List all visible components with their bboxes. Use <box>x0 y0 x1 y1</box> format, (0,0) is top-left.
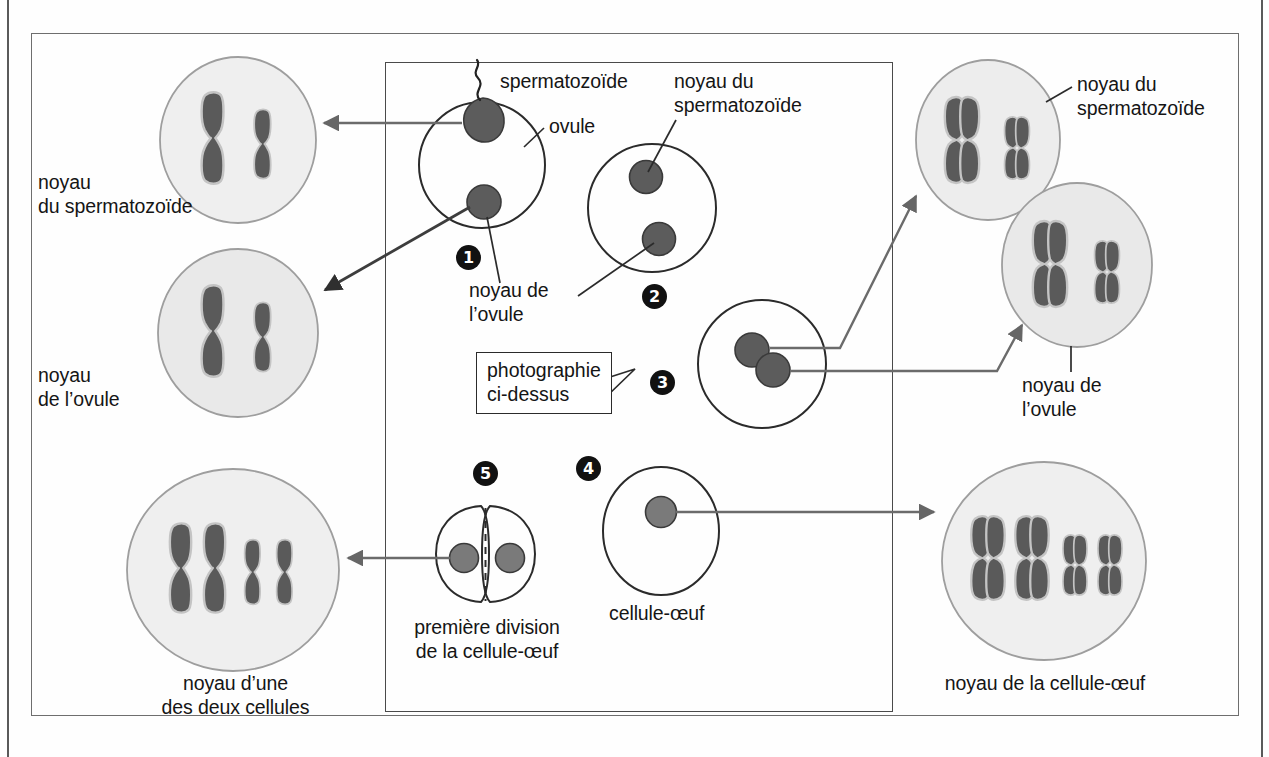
label-ovule: ovule <box>549 115 595 139</box>
step-badge-2[interactable]: 2 <box>642 284 667 309</box>
arrow-step3-to-sperm-doubled <box>770 196 916 348</box>
step4-egg-cell <box>603 467 719 595</box>
magnification-arrows <box>324 123 1022 558</box>
callout-photographie-ci-dessus: photographie ci-dessus <box>476 352 612 414</box>
step2-two-nuclei-cell <box>578 120 716 296</box>
magnified-ovule-nucleus-single <box>158 249 318 417</box>
magnified-egg-cell-nucleus <box>942 462 1146 660</box>
label-noyau-de-lovule-right: noyau de l’ovule <box>1022 374 1101 422</box>
arrow-ovule-nucleus-to-nucleus <box>325 207 470 290</box>
step3-fusing-nuclei-cell <box>698 300 826 428</box>
step-badge-4[interactable]: 4 <box>576 456 601 481</box>
magnified-daughter-cell-nucleus <box>127 469 339 671</box>
step-badge-1[interactable]: 1 <box>456 245 481 270</box>
diagram-canvas: noyau du spermatozoïde noyau de l’ovule … <box>0 0 1269 757</box>
step5-first-division-cell <box>436 506 535 602</box>
step-badge-3[interactable]: 3 <box>650 370 675 395</box>
step-badge-5[interactable]: 5 <box>473 461 498 486</box>
label-noyau-du-spermatozoide-right: noyau du spermatozoïde <box>1077 73 1205 121</box>
label-noyau-du-spermatozoide-left: noyau du spermatozoïde <box>38 171 193 219</box>
label-cellule-oeuf: cellule-œuf <box>609 602 704 626</box>
magnified-ovule-nucleus-doubled <box>1002 183 1152 372</box>
label-noyau-du-spermatozoide-center: noyau du spermatozoïde <box>674 70 802 118</box>
label-spermatozoide: spermatozoïde <box>500 70 628 94</box>
label-noyau-de-lovule-left: noyau de l’ovule <box>38 364 119 412</box>
label-premiere-division: première division de la cellule-œuf <box>383 616 591 664</box>
label-noyau-de-la-cellule-oeuf: noyau de la cellule-œuf <box>914 672 1176 696</box>
label-noyau-de-lovule-center: noyau de l’ovule <box>469 279 548 327</box>
label-noyau-dune-des-deux-cellules: noyau d’une des deux cellules <box>103 672 368 720</box>
